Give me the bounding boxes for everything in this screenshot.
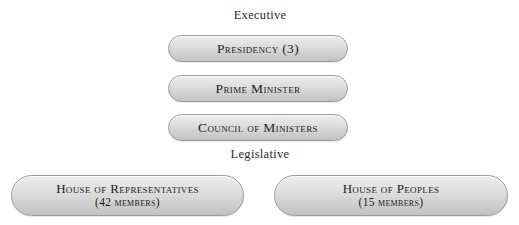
- node-house-of-peoples-title: House of Peoples: [343, 181, 440, 196]
- node-house-of-peoples-label: House of Peoples (15 members): [343, 166, 440, 225]
- government-structure-diagram: Executive Presidency (3) Prime Minister …: [0, 0, 519, 225]
- node-prime-minister-label: Prime Minister: [216, 81, 301, 97]
- node-presidency-label: Presidency (3): [217, 41, 299, 57]
- node-house-of-representatives-members: (42 members): [56, 196, 199, 210]
- node-presidency[interactable]: Presidency (3): [168, 35, 348, 62]
- node-house-of-representatives-label: House of Representatives (42 members): [56, 166, 199, 225]
- node-council-of-ministers[interactable]: Council of Ministers: [168, 114, 348, 141]
- section-heading-executive: Executive: [200, 8, 320, 23]
- node-house-of-representatives-title: House of Representatives: [56, 181, 199, 196]
- node-council-of-ministers-label: Council of Ministers: [198, 120, 318, 136]
- node-house-of-peoples-members: (15 members): [343, 196, 440, 210]
- node-house-of-peoples[interactable]: House of Peoples (15 members): [274, 175, 508, 216]
- section-heading-legislative: Legislative: [200, 147, 320, 162]
- node-house-of-representatives[interactable]: House of Representatives (42 members): [11, 175, 244, 216]
- node-prime-minister[interactable]: Prime Minister: [168, 75, 348, 102]
